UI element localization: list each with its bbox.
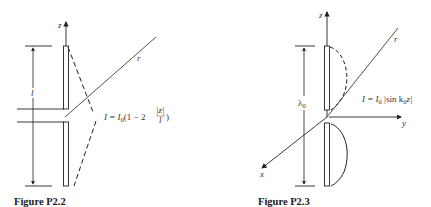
dipole-lower-arm	[64, 122, 69, 186]
current-distribution-upper	[68, 47, 93, 112]
formula-close: )	[166, 112, 169, 122]
current-distribution-lower	[74, 121, 96, 186]
dipole-upper-arm	[325, 46, 330, 110]
fraction-numerator: |z|	[156, 105, 164, 115]
ray-label: r	[137, 53, 141, 63]
figure-p2-2: z l r I = I0(1 − 2 |z| l ) Figure P2.2	[14, 20, 169, 207]
current-formula: I = I0 |sin k0z|	[361, 94, 412, 105]
fraction-denominator: l	[159, 115, 162, 125]
z-axis-label: z	[57, 20, 62, 30]
x-axis	[262, 117, 327, 168]
figure-p2-3: z λ0 y x r I = I0 |sin k0z| Figure P2.3	[258, 10, 412, 207]
length-label: l	[31, 88, 34, 98]
current-distribution-lower	[331, 124, 347, 186]
y-axis-label: y	[401, 118, 406, 128]
figure-caption: Figure P2.2	[14, 196, 66, 207]
dipole-lower-arm	[325, 123, 330, 186]
ray-r	[65, 37, 156, 117]
current-distribution-upper	[330, 47, 347, 110]
current-formula: I = I0(1 − 2	[103, 112, 145, 123]
ray-label: r	[394, 34, 398, 44]
z-axis-label: z	[318, 10, 323, 20]
length-label: λ0	[298, 98, 306, 109]
dipole-upper-arm	[64, 46, 69, 109]
figure-caption: Figure P2.3	[258, 196, 310, 207]
x-axis-label: x	[259, 169, 264, 179]
